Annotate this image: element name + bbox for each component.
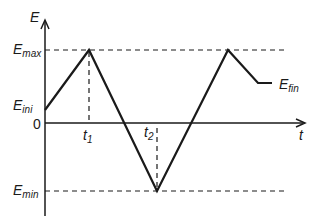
y-axis-label: E	[30, 10, 39, 24]
origin-label: 0	[33, 117, 41, 131]
eini-label: Eini	[13, 98, 32, 115]
energy-time-diagram	[0, 0, 317, 223]
emax-label: Emax	[13, 42, 41, 59]
t2-label: t2	[144, 125, 153, 142]
energy-waveform	[45, 50, 272, 191]
t1-label: t1	[83, 128, 92, 145]
x-axis-label: t	[299, 128, 303, 142]
emin-label: Emin	[13, 183, 38, 200]
efin-label: Efin	[279, 77, 299, 94]
